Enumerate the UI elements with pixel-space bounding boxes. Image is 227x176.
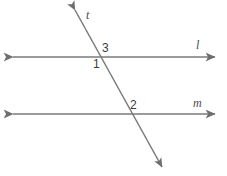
angle-label-2: 2: [130, 99, 137, 111]
line-label-t: t: [86, 9, 89, 21]
line-label-m: m: [193, 97, 202, 109]
geometry-figure-canvas: t l m 3 1 2: [0, 0, 227, 176]
geometry-figure-svg: [0, 0, 227, 176]
angle-label-3: 3: [102, 42, 109, 54]
line-t-transversal: [75, 10, 162, 167]
angle-label-1: 1: [93, 58, 100, 70]
line-label-l: l: [196, 39, 199, 51]
